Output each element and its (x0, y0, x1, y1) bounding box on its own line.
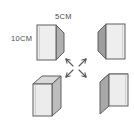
width-dimension-label: 5CM (55, 13, 72, 21)
prism-bottom-left (33, 76, 61, 116)
arrow-down-right-icon (79, 70, 86, 77)
prism-bottom-right (100, 74, 128, 114)
prism-top-right (98, 24, 125, 59)
prism-top-right-side-face (98, 24, 106, 59)
geometry-diagram: 5CM 10CM (0, 0, 134, 130)
radiating-arrows (66, 59, 86, 77)
prism-top-left-side-face (56, 25, 64, 60)
prism-top-left (37, 25, 64, 60)
arrow-up-right-icon (79, 59, 86, 66)
arrow-down-left-icon (66, 70, 73, 77)
arrow-up-left-icon (66, 59, 73, 66)
prism-bottom-right-side-face (100, 74, 109, 114)
height-dimension-label: 10CM (11, 35, 32, 43)
